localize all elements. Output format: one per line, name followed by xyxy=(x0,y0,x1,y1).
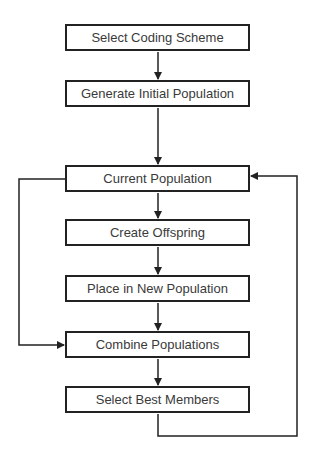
node-place-in-new-population: Place in New Population xyxy=(65,275,250,302)
node-combine-populations: Combine Populations xyxy=(65,331,250,358)
node-label: Combine Populations xyxy=(96,337,220,352)
node-label: Select Coding Scheme xyxy=(91,30,223,45)
node-label: Current Population xyxy=(103,171,211,186)
node-select-coding-scheme: Select Coding Scheme xyxy=(65,24,250,51)
flowchart: Select Coding Scheme Generate Initial Po… xyxy=(0,0,313,460)
node-label: Create Offspring xyxy=(110,225,205,240)
arrow-left-loop xyxy=(19,179,65,345)
node-create-offspring: Create Offspring xyxy=(65,219,250,246)
node-generate-initial-population: Generate Initial Population xyxy=(65,80,250,107)
node-current-population: Current Population xyxy=(65,165,250,192)
node-label: Generate Initial Population xyxy=(81,86,234,101)
node-label: Select Best Members xyxy=(96,392,220,407)
node-label: Place in New Population xyxy=(87,281,228,296)
node-select-best-members: Select Best Members xyxy=(65,386,250,413)
